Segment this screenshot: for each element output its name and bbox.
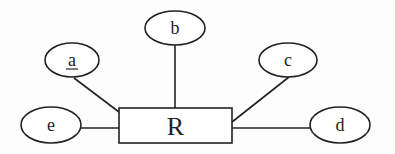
entity-label: R bbox=[167, 112, 185, 141]
attribute-label: b bbox=[171, 18, 180, 38]
attribute-label: e bbox=[47, 115, 55, 135]
connector-a bbox=[74, 78, 119, 112]
attribute-label: a bbox=[68, 50, 76, 70]
attribute-label: c bbox=[284, 50, 292, 70]
attribute-label: d bbox=[336, 115, 345, 135]
attribute-b: b bbox=[145, 11, 205, 45]
attribute-d: d bbox=[310, 107, 370, 143]
entity-R: R bbox=[119, 108, 232, 143]
attribute-a: a bbox=[45, 43, 99, 77]
er-diagram: abcdeR bbox=[0, 0, 395, 154]
connector-c bbox=[232, 77, 289, 122]
attribute-e: e bbox=[21, 107, 81, 143]
attribute-c: c bbox=[259, 43, 317, 77]
er-diagram-svg: abcdeR bbox=[0, 0, 395, 154]
